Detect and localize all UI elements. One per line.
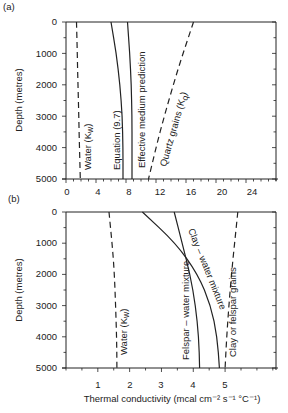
- svg-text:4000: 4000: [36, 142, 57, 153]
- curve-water-kw: [109, 212, 117, 368]
- svg-text:1000: 1000: [36, 237, 57, 248]
- curve-water-kw: [77, 22, 81, 179]
- panel-b-x-tick-labels: 1 2 3 4 5: [95, 379, 227, 390]
- panel-b-y-tick-labels: 0 1000 2000 3000 4000 5000: [36, 206, 57, 373]
- panel-b-axes: [62, 212, 278, 372]
- label-water-a: Water (Kw): [82, 124, 95, 170]
- panel-a-x-tick-labels: 0 4 8 12 16 20 24: [64, 186, 257, 197]
- panel-a-curve-labels: Water (Kw) Equation (9.7) Effective medi…: [82, 51, 191, 170]
- panel-b: (b) Depth (metres) 0 1000 2000 3000 4000…: [8, 193, 278, 404]
- label-equation: Equation (9.7): [111, 110, 122, 170]
- svg-text:0: 0: [52, 206, 57, 217]
- svg-text:2000: 2000: [36, 79, 57, 90]
- label-water-b: Water (Kw): [118, 309, 131, 355]
- svg-text:4: 4: [190, 379, 195, 390]
- panel-b-label: (b): [8, 193, 20, 204]
- panel-b-x-axis-title: Thermal conductivity (mcal cm⁻² s⁻¹ °C⁻¹…: [84, 393, 261, 404]
- chart-figure: (a) Depth (metres) 0 1000 2000 3000 4000…: [0, 0, 288, 413]
- svg-text:4000: 4000: [36, 331, 57, 342]
- label-quartz: Quartz grains (Kq): [157, 90, 191, 168]
- svg-text:2000: 2000: [36, 268, 57, 279]
- svg-text:4: 4: [95, 186, 100, 197]
- panel-b-y-axis-title: Depth (metres): [13, 258, 24, 321]
- panel-a: (a) Depth (metres) 0 1000 2000 3000 4000…: [3, 1, 278, 197]
- svg-text:8: 8: [126, 186, 131, 197]
- svg-text:5000: 5000: [36, 173, 57, 184]
- label-effective-medium: Effective medium prediction: [136, 51, 147, 168]
- panel-a-label: (a): [3, 1, 15, 12]
- svg-text:24: 24: [247, 186, 258, 197]
- panel-a-y-tick-labels: 0 1000 2000 3000 4000 5000: [36, 16, 57, 184]
- svg-text:20: 20: [217, 186, 228, 197]
- svg-text:5000: 5000: [36, 362, 57, 373]
- svg-text:0: 0: [52, 16, 57, 27]
- svg-text:1000: 1000: [36, 48, 57, 59]
- svg-text:0: 0: [64, 186, 69, 197]
- svg-text:3: 3: [158, 379, 163, 390]
- label-felspar-mixture: Felspar – water mixture: [180, 261, 191, 360]
- svg-text:2: 2: [127, 379, 132, 390]
- svg-text:3000: 3000: [36, 111, 57, 122]
- svg-text:12: 12: [155, 186, 166, 197]
- curve-effective-medium-prediction: [128, 22, 133, 179]
- label-clay-felspar-grains: Clay or felspar grains: [227, 267, 238, 357]
- svg-text:1: 1: [95, 379, 100, 390]
- svg-text:3000: 3000: [36, 300, 57, 311]
- svg-text:5: 5: [222, 379, 227, 390]
- panel-a-y-axis-title: Depth (metres): [13, 68, 24, 131]
- svg-text:16: 16: [186, 186, 197, 197]
